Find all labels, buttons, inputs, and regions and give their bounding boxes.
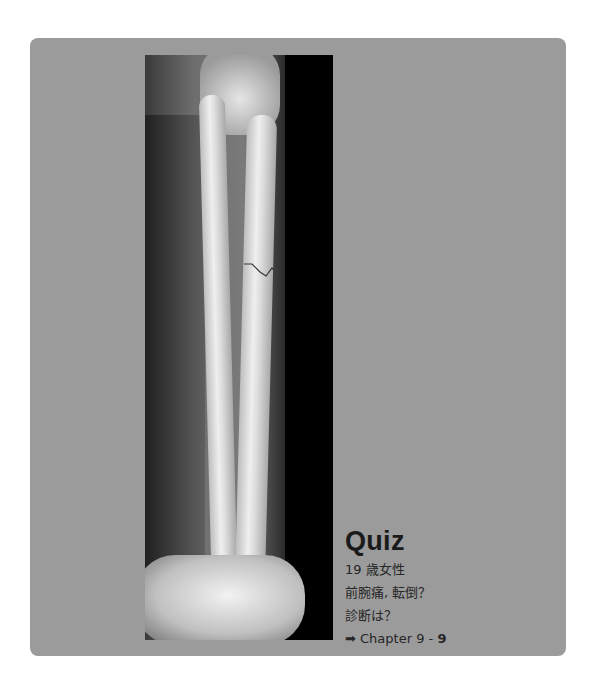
fracture-line bbox=[242, 260, 282, 284]
quiz-panel: Quiz 19 歳女性 前腕痛, 転倒？ 診断は？ ➡ Chapter 9 - … bbox=[345, 526, 446, 650]
right-arrow-icon: ➡ bbox=[345, 631, 356, 646]
forearm-xray-image bbox=[145, 55, 333, 640]
patient-info: 19 歳女性 bbox=[345, 558, 446, 581]
chapter-reference: ➡ Chapter 9 - 9 bbox=[345, 627, 446, 650]
symptom-info: 前腕痛, 転倒？ bbox=[345, 581, 446, 604]
quiz-title: Quiz bbox=[345, 526, 446, 556]
elbow-joint bbox=[145, 555, 305, 640]
quiz-card: Quiz 19 歳女性 前腕痛, 転倒？ 診断は？ ➡ Chapter 9 - … bbox=[30, 38, 566, 656]
chapter-number: 9 bbox=[437, 631, 446, 646]
chapter-prefix: Chapter 9 - bbox=[360, 631, 437, 646]
soft-tissue-edge bbox=[145, 115, 205, 595]
diagnosis-question: 診断は？ bbox=[345, 604, 446, 627]
